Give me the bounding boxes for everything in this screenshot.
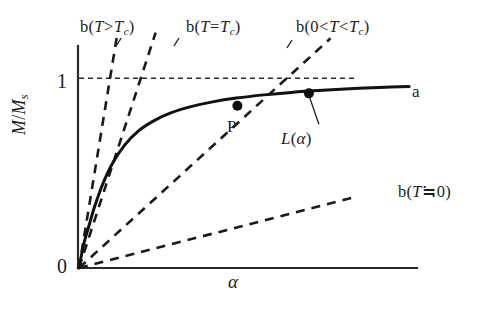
tangent-line-b-above-tc bbox=[79, 33, 118, 268]
y-axis-title-sub: s bbox=[17, 94, 31, 99]
leader-b-at-tc bbox=[174, 38, 179, 46]
label-b-above-tc-T: T bbox=[94, 17, 103, 36]
label-langevin: L(α) bbox=[281, 130, 312, 147]
label-b-near-zero-paren-close: ) bbox=[445, 182, 451, 201]
figure-canvas bbox=[0, 0, 489, 311]
label-b-at-tc-paren-close: ) bbox=[235, 17, 241, 36]
label-langevin-alpha: α bbox=[297, 129, 306, 148]
label-b-between-Tc: T bbox=[349, 17, 358, 36]
y-axis-title: M/Ms bbox=[10, 94, 31, 135]
y-tick-label-one: 1 bbox=[57, 71, 67, 91]
label-b-between-zero: 0 bbox=[310, 17, 318, 36]
y-axis-title-slash: / bbox=[9, 115, 29, 120]
label-langevin-paren-close: ) bbox=[306, 129, 312, 148]
label-leader-group bbox=[117, 38, 292, 48]
label-b-near-zero-op: ≒ bbox=[422, 182, 437, 201]
label-b-above-tc-op: > bbox=[104, 17, 115, 36]
langevin-figure: b(T>Tc) b(T=Tc) b(0<T<Tc) b(T≒0) 1 0 M/M… bbox=[0, 0, 489, 311]
y-axis-title-M: M bbox=[9, 120, 29, 135]
label-b-between: b(0<T<Tc) bbox=[296, 19, 370, 37]
label-b-above-tc: b(T>Tc) bbox=[80, 19, 135, 37]
label-b-between-paren-close: ) bbox=[364, 17, 370, 36]
label-langevin-L: L bbox=[281, 129, 291, 148]
label-b-near-zero: b(T≒0) bbox=[398, 184, 451, 201]
label-b-at-tc-T: T bbox=[200, 17, 209, 36]
label-b-near-zero-T: T bbox=[412, 182, 421, 201]
label-curve-a: a bbox=[412, 83, 420, 100]
label-b-at-tc: b(T=Tc) bbox=[186, 19, 241, 37]
leader-b-between bbox=[287, 40, 292, 48]
y-axis-title-Ms: M bbox=[9, 99, 29, 114]
label-b-at-tc-op: = bbox=[210, 17, 221, 36]
label-b-near-zero-zero: 0 bbox=[437, 182, 445, 201]
langevin-leader-line bbox=[309, 95, 319, 124]
label-b-above-tc-paren-close: ) bbox=[129, 17, 135, 36]
label-b-between-op2: < bbox=[339, 17, 350, 36]
x-axis-title: α bbox=[228, 272, 238, 291]
label-b-between-op1: < bbox=[319, 17, 330, 36]
axes-group bbox=[78, 46, 417, 268]
point-p-marker bbox=[232, 101, 242, 111]
label-b-between-T: T bbox=[329, 17, 338, 36]
y-tick-label-zero: 0 bbox=[57, 256, 67, 276]
tangent-line-b-near-zero bbox=[79, 198, 352, 268]
label-point-p: P bbox=[227, 118, 237, 135]
